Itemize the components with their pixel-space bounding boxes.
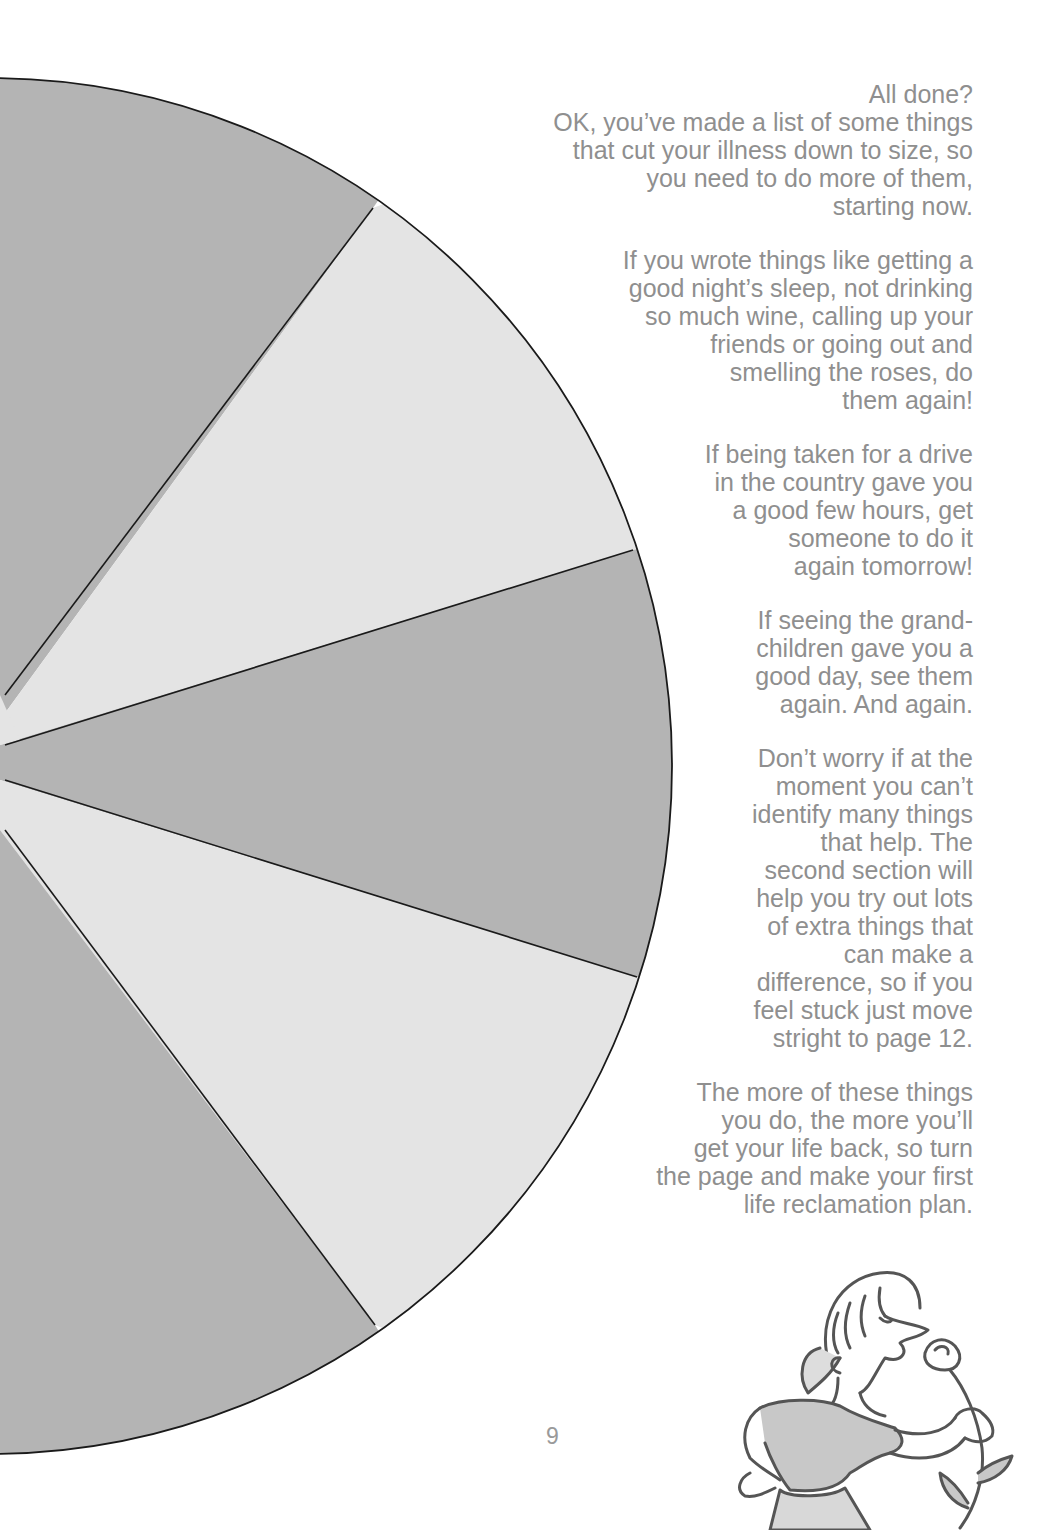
- paragraph-dont-worry: Don’t worry if at the moment you can’t i…: [453, 744, 973, 1052]
- paragraph-grandchildren: If seeing the grand- children gave you a…: [453, 606, 973, 718]
- page-number: 9: [546, 1423, 559, 1450]
- paragraph-drive-in-country: If being taken for a drive in the countr…: [453, 440, 973, 580]
- paragraph-good-nights-sleep: If you wrote things like getting a good …: [453, 246, 973, 414]
- paragraph-more-of-these-things: The more of these things you do, the mor…: [453, 1078, 973, 1218]
- body-text-column: All done? OK, you’ve made a list of some…: [453, 80, 973, 1244]
- paragraph-all-done: All done? OK, you’ve made a list of some…: [453, 80, 973, 220]
- woman-smelling-rose-icon: [720, 1258, 1020, 1530]
